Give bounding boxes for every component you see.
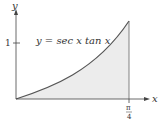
x-axis-arrow-icon: [144, 97, 150, 101]
graph: y x 1 y = sec x tan x π 4: [0, 0, 164, 128]
x-axis-label: x: [152, 93, 158, 104]
y-axis-label: y: [11, 0, 18, 11]
x-tick-label-num: π: [126, 104, 131, 112]
shaded-area: [16, 21, 129, 99]
x-tick-label-den: 4: [127, 113, 132, 121]
y-tick-label: 1: [5, 38, 11, 48]
equation-label: y = sec x tan x: [35, 35, 111, 46]
